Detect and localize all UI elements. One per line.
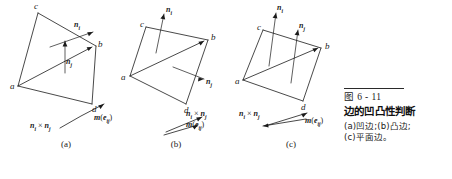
cross-product-vector-arrowhead <box>98 104 104 109</box>
diagram-panel-a: c b a d ni nj ni × nj m(eij) (a) <box>8 0 123 155</box>
normal-label-nj: nj <box>206 78 212 88</box>
figure-number: 图 6 - 11 <box>344 92 448 102</box>
edge-d-b <box>186 40 208 104</box>
m-edge-label: m(eij) <box>94 114 112 124</box>
edge-d-b <box>303 48 321 101</box>
diagram-panel-b: c b a d ni nj ni × nj m(eij) (b) <box>118 0 233 155</box>
edge-d-b <box>92 46 96 104</box>
normal-ni-arrowhead <box>87 32 93 36</box>
figure-subcaption-line-2: (c)平面边。 <box>344 132 448 143</box>
normal-label-ni: ni <box>277 4 283 14</box>
panel-a-drawing <box>8 0 123 155</box>
normal-nj-shaft <box>173 67 204 79</box>
diagram-panel-c: c b a d ni nj ni × nj m(eij) (c) <box>233 0 348 155</box>
normal-label-nj: nj <box>66 58 72 68</box>
panel-caption-c: (c) <box>271 140 311 149</box>
edge-a-b-diagonal <box>18 47 92 86</box>
edge-c-a <box>130 27 146 76</box>
vertex-label-d: d <box>301 103 306 112</box>
edge-a-d <box>243 80 303 101</box>
normal-nj-shaft <box>291 30 298 83</box>
vertex-label-a: a <box>121 73 126 82</box>
normal-label-ni: ni <box>166 6 172 16</box>
m-edge-label: m(eij) <box>186 121 204 131</box>
edge-a-d <box>130 76 186 104</box>
edge-a-d <box>18 86 92 104</box>
figure-container: c b a d ni nj ni × nj m(eij) (a) <box>0 0 452 179</box>
cross-product-label: ni × nj <box>186 110 206 120</box>
edge-a-b-arrowhead <box>87 47 92 51</box>
panel-caption-b: (b) <box>156 140 196 149</box>
normal-label-nj: nj <box>299 22 305 32</box>
vertex-label-c: c <box>34 2 38 11</box>
vertex-label-c: c <box>257 23 261 32</box>
panel-caption-a: (a) <box>46 140 86 149</box>
normal-ni-shaft <box>269 13 276 66</box>
panel-c-drawing <box>233 0 348 155</box>
edge-b-c <box>146 27 208 40</box>
edge-a-b-diagonal <box>130 41 204 76</box>
figure-subcaption-line-1: (a)凹边;(b)凸边; <box>344 121 448 132</box>
vertex-label-a: a <box>10 82 15 91</box>
figure-caption-block: 图 6 - 11 边的凹凸性判断 (a)凹边;(b)凸边; (c)平面边。 <box>344 88 448 143</box>
panel-b-drawing <box>118 0 233 155</box>
vertex-label-b: b <box>98 40 103 49</box>
cross-product-label: ni × nj <box>239 110 259 120</box>
normal-label-ni: ni <box>74 21 80 31</box>
normal-ni-arrowhead <box>160 14 165 20</box>
normal-ni-shaft <box>156 14 164 53</box>
figure-title: 边的凹凸性判断 <box>344 105 448 117</box>
caption-divider <box>344 88 404 89</box>
m-edge-label: m(eij) <box>305 117 323 127</box>
vertex-label-b: b <box>211 33 216 42</box>
cross-product-label: ni × nj <box>30 122 50 132</box>
edge-a-b-arrowhead <box>312 48 318 52</box>
vertex-label-c: c <box>140 20 144 29</box>
vertex-label-b: b <box>325 42 330 51</box>
vertex-label-a: a <box>235 77 240 86</box>
normal-ni-shaft <box>50 32 93 47</box>
edge-c-a <box>18 13 38 86</box>
